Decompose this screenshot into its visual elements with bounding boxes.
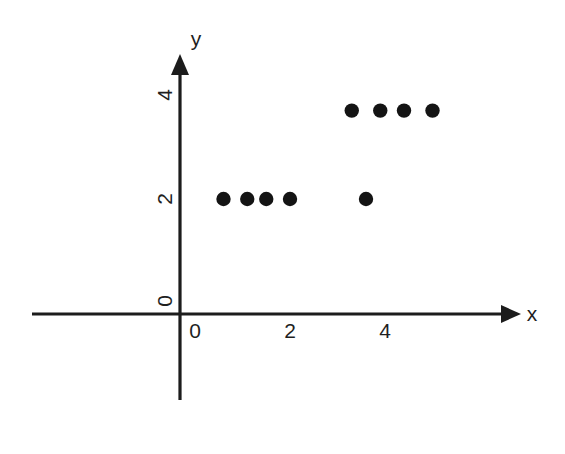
x-axis-label: x (527, 302, 538, 325)
scatter-plot-figure: x y 0 2 4 0 2 4 (0, 0, 565, 454)
data-point (216, 192, 230, 206)
y-axis-label: y (191, 27, 202, 50)
x-tick-label-2: 2 (284, 319, 296, 342)
data-point (397, 103, 411, 117)
data-point (373, 103, 387, 117)
data-point (425, 103, 439, 117)
data-point (240, 192, 254, 206)
plot-background (0, 0, 565, 454)
x-tick-label-0: 0 (189, 319, 201, 342)
data-point (345, 103, 359, 117)
data-point (259, 192, 273, 206)
scatter-plot-canvas: x y 0 2 4 0 2 4 (0, 0, 565, 454)
data-point (359, 192, 373, 206)
y-tick-label-0: 0 (153, 295, 176, 307)
y-tick-label-4: 4 (153, 89, 176, 101)
y-tick-label-2: 2 (153, 193, 176, 205)
x-tick-label-4: 4 (379, 319, 391, 342)
data-point (283, 192, 297, 206)
